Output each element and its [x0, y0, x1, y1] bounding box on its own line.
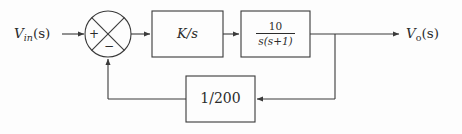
plant-denominator: s(s+1) [255, 34, 295, 47]
input-label-main: V [14, 25, 24, 41]
plant-block-label: 10 s(s+1) [241, 20, 310, 47]
input-label-subscript: in [24, 32, 33, 43]
block-diagram: Vin(s) Vo(s) + − K/s 10 s(s+1) 1/200 [0, 0, 462, 134]
summing-junction-minus-sign: − [104, 39, 114, 53]
input-label-args: (s) [33, 25, 50, 41]
plant-fraction: 10 s(s+1) [255, 20, 295, 47]
summing-junction-plus-sign: + [89, 27, 99, 41]
diagram-wires [0, 0, 462, 134]
feedback-block-label: 1/200 [186, 90, 255, 106]
output-label-args: (s) [421, 25, 438, 41]
gain-block-label: K/s [152, 26, 223, 41]
plant-denominator-factor: (s+1) [264, 35, 293, 47]
output-label-main: V [406, 25, 416, 41]
input-signal-label: Vin(s) [14, 27, 50, 42]
output-signal-label: Vo(s) [406, 27, 439, 42]
plant-numerator: 10 [255, 20, 295, 33]
